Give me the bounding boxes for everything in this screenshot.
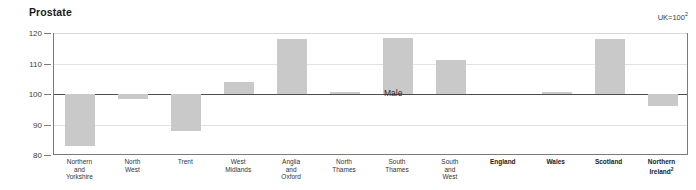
gridline-110 [54,64,687,65]
bar [224,82,254,94]
chart-title: Prostate [29,6,72,18]
bar [118,94,148,99]
y-tick-label-100: 100 [29,90,42,99]
prostate-bar-chart: Prostate UK=1002 120 110 100 90 80 Male … [0,0,696,190]
bar [542,92,572,94]
x-axis-category-label: North West [106,158,159,173]
series-annotation-male: Male [384,88,402,98]
uk-index-note-superscript: 2 [685,11,688,17]
uk-index-note: UK=1002 [658,11,688,22]
y-tick-label-120: 120 [29,29,42,38]
x-axis-category-label: Northern Ireland2 [635,158,688,175]
bar [436,60,466,94]
bar [277,39,307,94]
bar [595,39,625,94]
x-axis-category-label: Wales [529,158,582,166]
y-tick-mark-110 [44,64,51,65]
x-axis-category-labels: Northern and YorkshireNorth WestTrentWes… [53,158,688,190]
x-axis-category-label: North Thames [318,158,371,173]
x-axis-category-label: Northern and Yorkshire [53,158,106,181]
x-axis-category-label: South and West [423,158,476,181]
y-tick-mark-100 [44,94,51,95]
x-axis-category-label: West Midlands [212,158,265,173]
plot-area: Male [53,33,688,155]
y-tick-label-80: 80 [33,151,42,160]
x-axis-category-label: Anglia and Oxford [265,158,318,181]
bar [383,38,413,94]
y-tick-mark-120 [44,33,51,34]
uk-index-note-text: UK=100 [658,13,685,22]
y-tick-label-110: 110 [29,59,42,68]
bar [330,92,360,94]
bar [65,94,95,146]
x-axis-category-label: Trent [159,158,212,166]
x-axis-category-label: England [476,158,529,166]
x-axis-category-label: South Thames [371,158,424,173]
gridline-120 [54,33,687,34]
gridline-90 [54,125,687,126]
bar [648,94,678,106]
y-tick-label-90: 90 [33,120,42,129]
x-axis-category-label: Scotland [582,158,635,166]
y-tick-mark-90 [44,125,51,126]
y-tick-mark-80 [44,155,51,156]
y-axis: 120 110 100 90 80 [0,33,53,155]
bar [171,94,201,131]
baseline-100 [54,94,687,95]
